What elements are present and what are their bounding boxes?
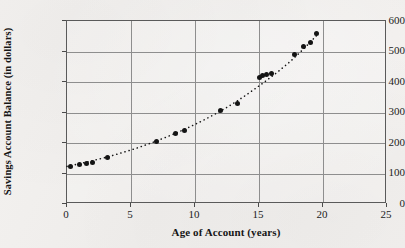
data-point (314, 31, 319, 36)
x-tick-mark (386, 203, 387, 207)
x-axis-title: Age of Account (years) (66, 226, 386, 238)
x-tick-label: 10 (174, 209, 214, 220)
data-point (84, 161, 89, 166)
data-point (90, 160, 95, 165)
data-point (68, 164, 73, 169)
x-tick-label: 0 (46, 209, 86, 220)
x-tick-mark (194, 203, 195, 207)
x-tick-mark (66, 203, 67, 207)
x-tick-label: 5 (110, 209, 150, 220)
data-point (173, 131, 178, 136)
data-point (292, 52, 297, 57)
x-tick-mark (258, 203, 259, 207)
data-point (218, 108, 223, 113)
x-tick-mark (130, 203, 131, 207)
x-tick-label: 25 (366, 209, 405, 220)
x-tick-label: 20 (302, 209, 342, 220)
data-points (67, 21, 385, 202)
data-point (269, 71, 274, 76)
x-tick-label: 15 (238, 209, 278, 220)
data-point (154, 139, 159, 144)
plot-area (66, 20, 386, 203)
data-point (77, 162, 82, 167)
x-tick-mark (322, 203, 323, 207)
data-point (308, 40, 313, 45)
data-point (182, 128, 187, 133)
savings-account-chart-figure: Savings Account Balance (in dollars) 010… (0, 0, 405, 248)
y-axis-title: Savings Account Balance (in dollars) (2, 20, 16, 203)
data-point (105, 155, 110, 160)
data-point (301, 44, 306, 49)
data-point (235, 101, 240, 106)
